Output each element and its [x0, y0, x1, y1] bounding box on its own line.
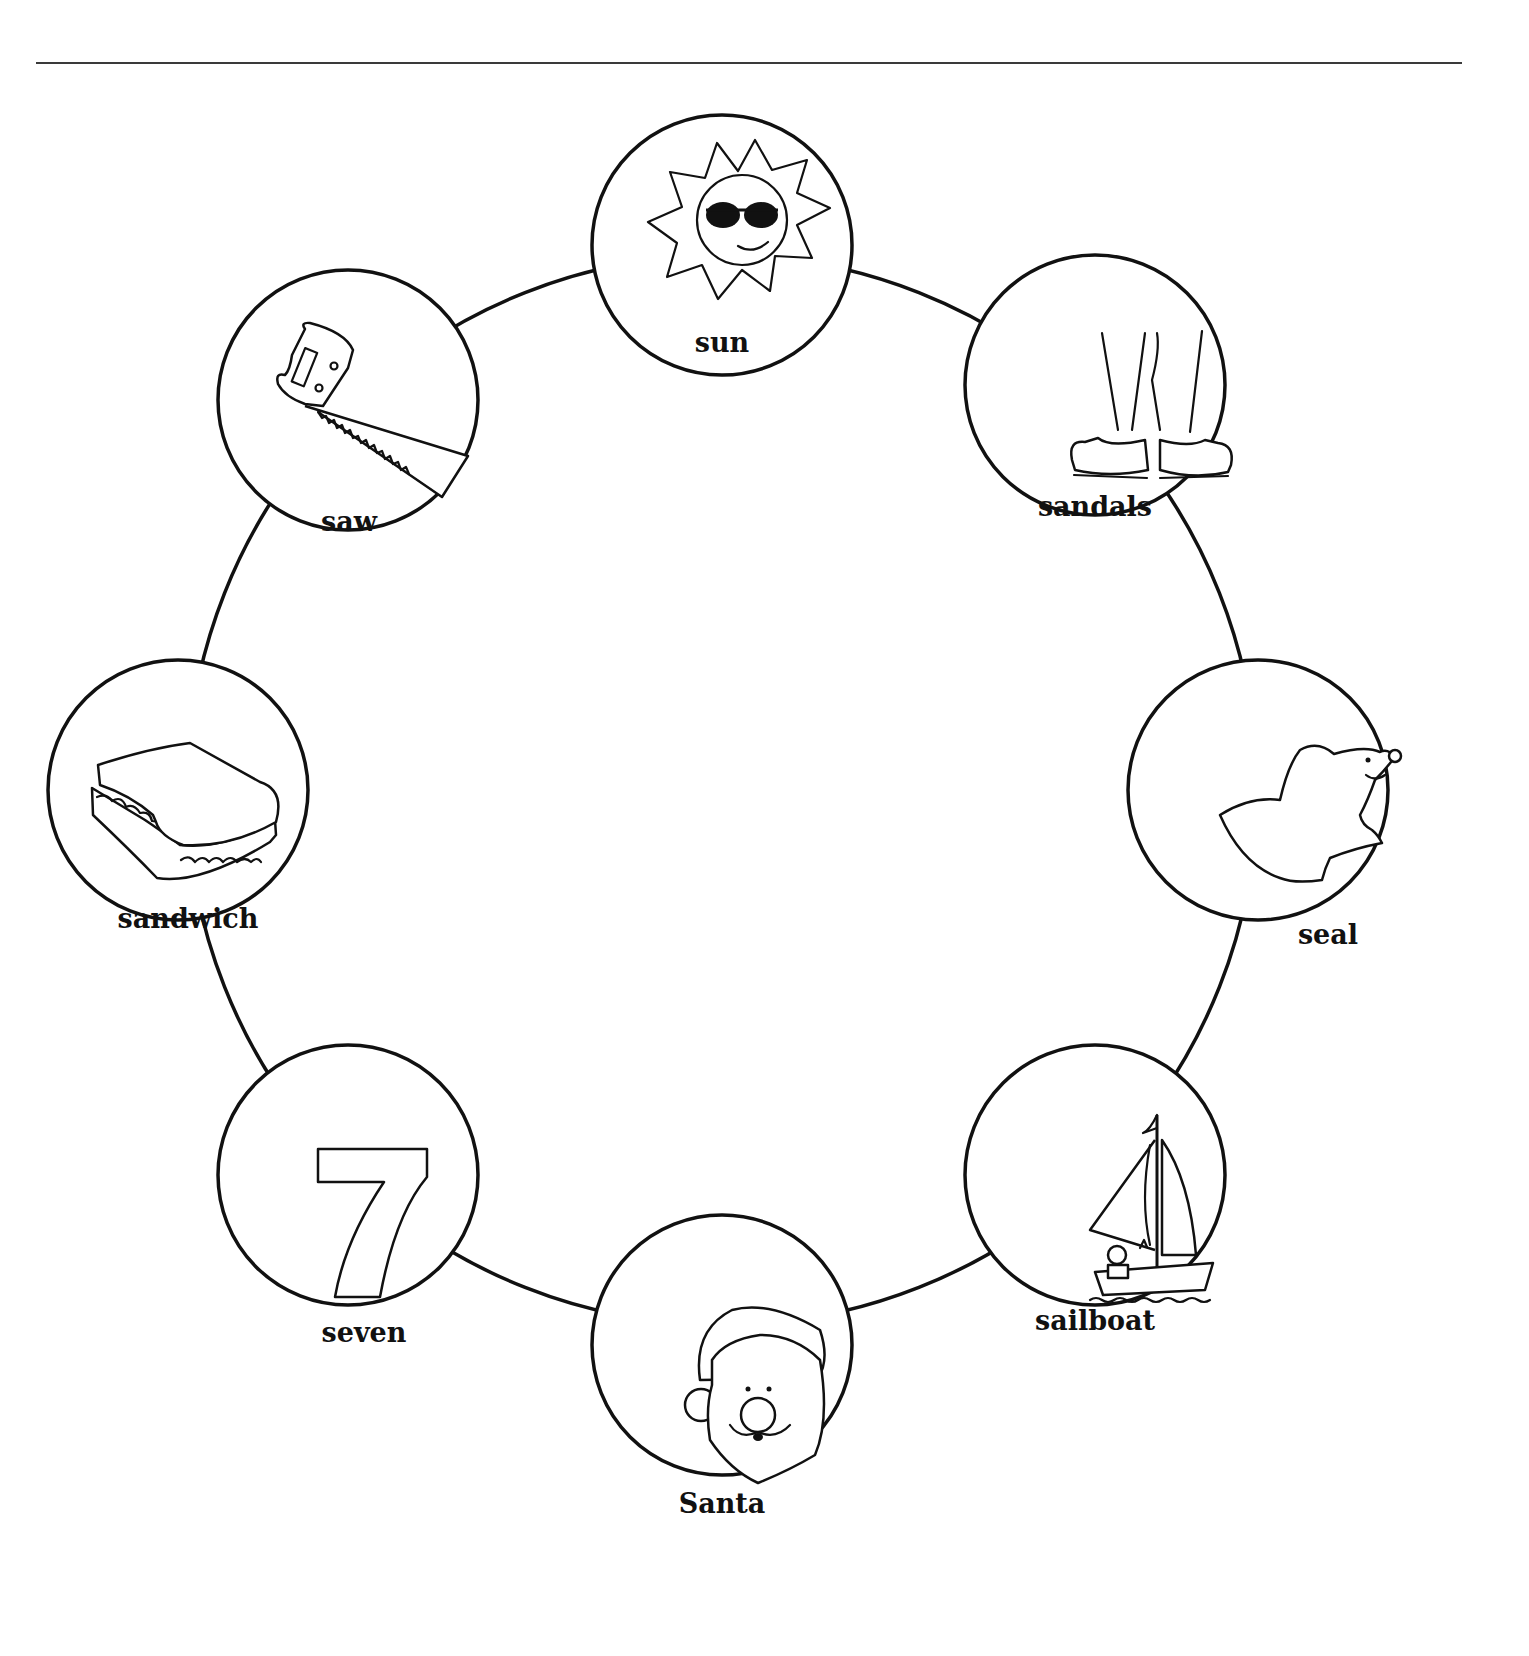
item-sandwich: sandwich	[48, 660, 308, 934]
item-sailboat: sailboat	[965, 1045, 1225, 1336]
item-label: Santa	[679, 1488, 766, 1519]
item-label: seven	[322, 1317, 407, 1348]
item-sandals: sandals	[965, 255, 1232, 522]
item-label: saw	[321, 506, 378, 537]
item-saw: saw	[218, 270, 478, 537]
item-label: sun	[695, 327, 750, 358]
item-label: sailboat	[1035, 1305, 1156, 1336]
phonics-circle-worksheet: sun sandals seal	[0, 0, 1529, 1656]
item-sun: sun	[592, 115, 852, 375]
item-seal: seal	[1128, 660, 1401, 950]
item-label: seal	[1298, 919, 1358, 950]
item-label: sandals	[1038, 491, 1152, 522]
item-label: sandwich	[118, 903, 259, 934]
item-seven: seven	[218, 1045, 478, 1348]
item-santa: Santa	[592, 1215, 852, 1519]
